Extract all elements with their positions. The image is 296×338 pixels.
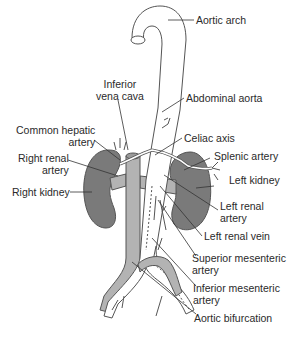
label-left-renal-artery: Left renal artery [220,200,264,224]
label-right-renal-artery: Right renal artery [18,152,69,176]
label-right-kidney: Right kidney [12,186,70,198]
label-abdominal-aorta: Abdominal aorta [186,92,262,104]
aortic-arch-opening [131,36,145,44]
label-aortic-bifurcation: Aortic bifurcation [194,312,272,324]
label-celiac-axis: Celiac axis [184,132,235,144]
label-common-hepatic-artery: Common hepatic artery [16,124,95,148]
label-inferior-mesenteric-artery: Inferior mesenteric artery [193,282,280,306]
label-superior-mesenteric-artery: Superior mesenteric artery [192,252,286,276]
label-left-renal-vein: Left renal vein [204,230,270,242]
label-aortic-arch: Aortic arch [196,14,246,26]
label-inferior-vena-cava: Inferior vena cava [96,78,144,102]
label-splenic-artery: Splenic artery [214,150,278,162]
label-left-kidney: Left kidney [229,174,280,186]
